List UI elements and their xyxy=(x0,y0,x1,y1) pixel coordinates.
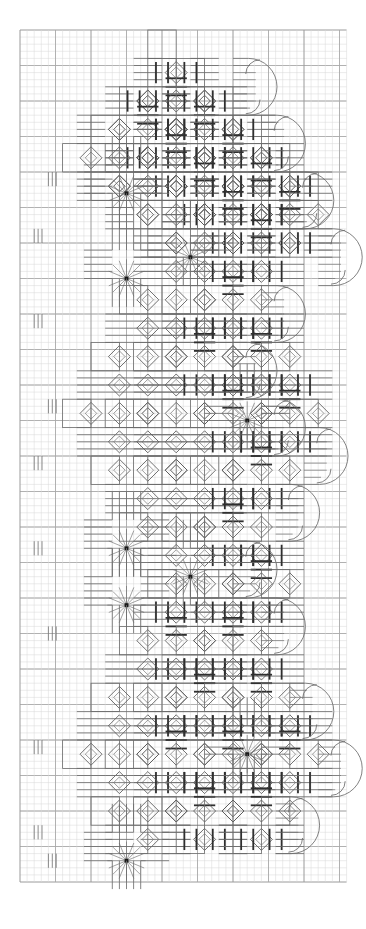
pattern-chart-canvas: Hardanger Embroidery Pattern Chart Count… xyxy=(0,0,366,929)
hardanger-pattern-svg xyxy=(0,0,366,929)
